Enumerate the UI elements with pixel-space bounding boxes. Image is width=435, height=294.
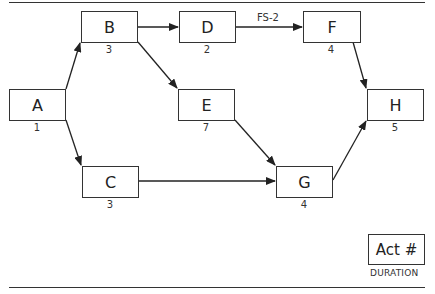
node-g[interactable]: G: [276, 166, 333, 198]
edge-a-b: [66, 43, 80, 89]
edge-b-e: [138, 42, 177, 88]
edge-g-h: [333, 121, 366, 180]
legend-activity-box: Act #: [368, 234, 425, 265]
node-h-duration: 5: [367, 122, 423, 133]
node-a-duration: 1: [9, 122, 65, 133]
node-e-duration: 7: [178, 122, 234, 133]
node-b[interactable]: B: [81, 11, 138, 43]
node-a[interactable]: A: [9, 89, 66, 121]
node-g-duration: 4: [276, 199, 332, 210]
legend-duration-label: DURATION: [370, 268, 418, 278]
node-f-duration: 4: [303, 44, 359, 55]
node-d-duration: 2: [179, 44, 235, 55]
node-c[interactable]: C: [82, 166, 139, 198]
node-f[interactable]: F: [303, 11, 361, 43]
node-d[interactable]: D: [179, 11, 236, 43]
edge-label-d-f: FS-2: [257, 12, 279, 23]
node-c-duration: 3: [82, 199, 138, 210]
edge-a-c: [66, 120, 81, 165]
node-h[interactable]: H: [367, 89, 424, 121]
edge-e-g: [235, 120, 275, 165]
node-b-duration: 3: [81, 44, 137, 55]
node-e[interactable]: E: [178, 89, 235, 121]
